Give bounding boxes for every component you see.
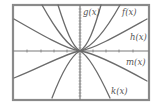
function-graph: g(x) f(x) h(x) m(x) k(x)	[0, 0, 160, 106]
graph-frame	[13, 5, 149, 100]
label-g: g(x)	[83, 7, 100, 17]
label-f: f(x)	[121, 7, 137, 17]
label-h: h(x)	[130, 32, 147, 42]
label-m: m(x)	[126, 57, 146, 67]
label-k: k(x)	[111, 86, 128, 96]
